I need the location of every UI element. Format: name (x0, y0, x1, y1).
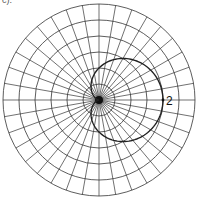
point-label: 2 (166, 94, 173, 108)
polar-diagram: 2 (0, 0, 200, 199)
point-marker (162, 99, 165, 102)
